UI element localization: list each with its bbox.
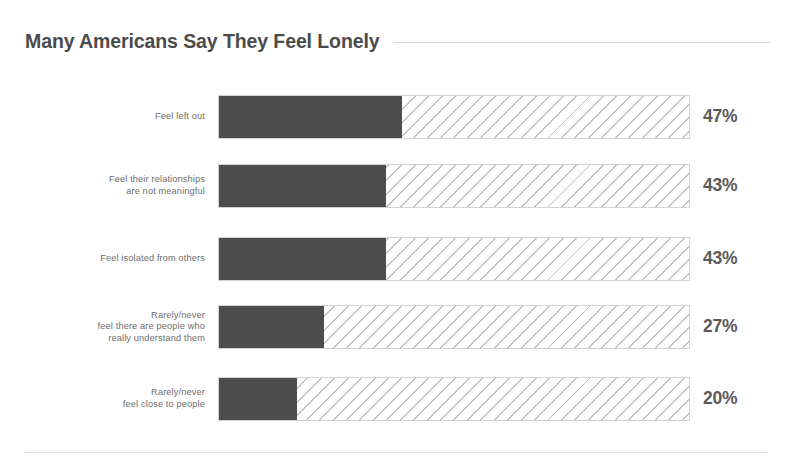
bar-label-line: really understand them [18,333,205,345]
bar-label-line: Rarely/never [18,387,205,399]
bar-row: Feel their relationshipsare not meaningf… [0,164,797,208]
bar-label-line: feel there are people who [18,321,205,333]
bar-label-line: Feel their relationships [18,174,205,186]
bar-value-label: 43% [703,175,773,196]
bar-row-label: Feel left out [18,111,205,123]
bar-row: Rarely/neverfeel close to people20% [0,377,797,421]
bar-row-label: Rarely/neverfeel close to people [18,387,205,410]
bar-value-label: 20% [703,388,773,409]
bar-label-line: Rarely/never [18,310,205,322]
bar-track [218,305,690,349]
bar-row-label: Feel their relationshipsare not meaningf… [18,174,205,197]
bar-label-line: Feel isolated from others [18,253,205,265]
bar-value-label: 43% [703,248,773,269]
bar-row-label: Rarely/neverfeel there are people whorea… [18,310,205,345]
bar-chart: Feel left out47%Feel their relationships… [0,78,797,430]
bar-fill [219,238,386,280]
bar-value-label: 27% [703,316,773,337]
bar-row: Rarely/neverfeel there are people whorea… [0,305,797,349]
bar-label-line: are not meaningful [18,186,205,198]
bar-track [218,377,690,421]
title-divider [394,42,771,43]
bar-value-label: 47% [703,106,773,127]
bar-fill [219,306,324,348]
bar-track [218,95,690,139]
bar-label-line: Feel left out [18,111,205,123]
page-title: Many Americans Say They Feel Lonely [25,30,380,53]
bar-fill [219,96,402,138]
bar-track [218,164,690,208]
bar-row-label: Feel isolated from others [18,253,205,265]
bar-fill [219,378,297,420]
bar-track [218,237,690,281]
bar-label-line: feel close to people [18,399,205,411]
chart-header: Many Americans Say They Feel Lonely [25,27,770,55]
footer-divider [25,452,767,453]
bar-row: Feel isolated from others43% [0,237,797,281]
bar-row: Feel left out47% [0,95,797,139]
bar-fill [219,165,386,207]
